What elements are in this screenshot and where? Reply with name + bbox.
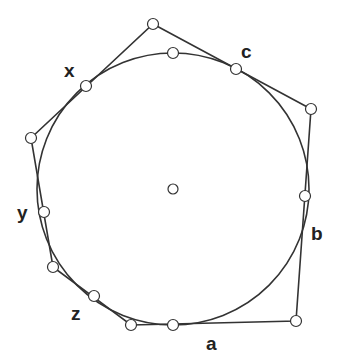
label-a: a <box>206 333 217 354</box>
tangent-point-x <box>81 81 92 92</box>
label-b: b <box>311 223 323 244</box>
tangent-point-a <box>168 320 179 331</box>
geometry-diagram: x c y b z a <box>0 0 341 364</box>
tangent-point-z <box>89 291 100 302</box>
label-x: x <box>64 60 75 81</box>
label-c: c <box>241 41 252 62</box>
label-y: y <box>17 202 28 223</box>
tangent-point-y <box>39 207 50 218</box>
label-z: z <box>71 303 81 324</box>
center-point <box>168 184 178 194</box>
vertex-point <box>26 133 37 144</box>
vertex-point <box>306 104 317 115</box>
tangent-point-top <box>168 48 179 59</box>
tangent-point-c <box>231 64 242 75</box>
vertex-point <box>48 262 59 273</box>
tangent-point-b <box>300 191 311 202</box>
vertex-point <box>126 320 137 331</box>
vertex-point <box>148 19 159 30</box>
vertex-point <box>291 316 302 327</box>
